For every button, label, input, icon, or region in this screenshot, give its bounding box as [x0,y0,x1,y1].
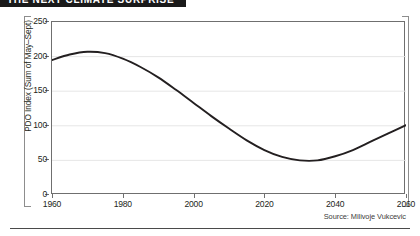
x-tick-mark [264,194,265,198]
x-tick-label: 2040 [315,200,355,209]
x-tick-mark [406,194,407,198]
y-axis-ticks: 050100150200250 [16,21,47,194]
series-line-pdo-index [52,52,406,161]
y-tick-label: 150 [21,86,47,95]
y-tick-label: 100 [21,121,47,130]
y-tick-label: 200 [21,52,47,61]
y-tick-label: 50 [21,155,47,164]
series-group [52,52,406,161]
x-axis-ticks: 196019802000202020402060 [51,194,407,214]
bottom-divider [10,228,410,229]
y-tick-label: 250 [21,17,47,26]
x-tick-mark [194,194,195,198]
x-tick-mark [335,194,336,198]
x-tick-mark [52,194,53,198]
plot-svg [52,22,406,195]
chart-figure: PDO Index (Sum of May–Sept) 050100150200… [0,8,420,236]
x-tick-label: 2020 [244,200,284,209]
gridlines [52,57,406,161]
x-tick-label: 2060 [386,200,420,209]
x-tick-label: 1980 [103,200,143,209]
plot-area [51,21,405,194]
x-tick-label: 1960 [32,200,72,209]
x-tick-mark [123,194,124,198]
y-tick-label: 0 [21,190,47,199]
source-credit: Source: Milivoje Vukcevic [324,212,406,221]
x-tick-label: 2000 [174,200,214,209]
